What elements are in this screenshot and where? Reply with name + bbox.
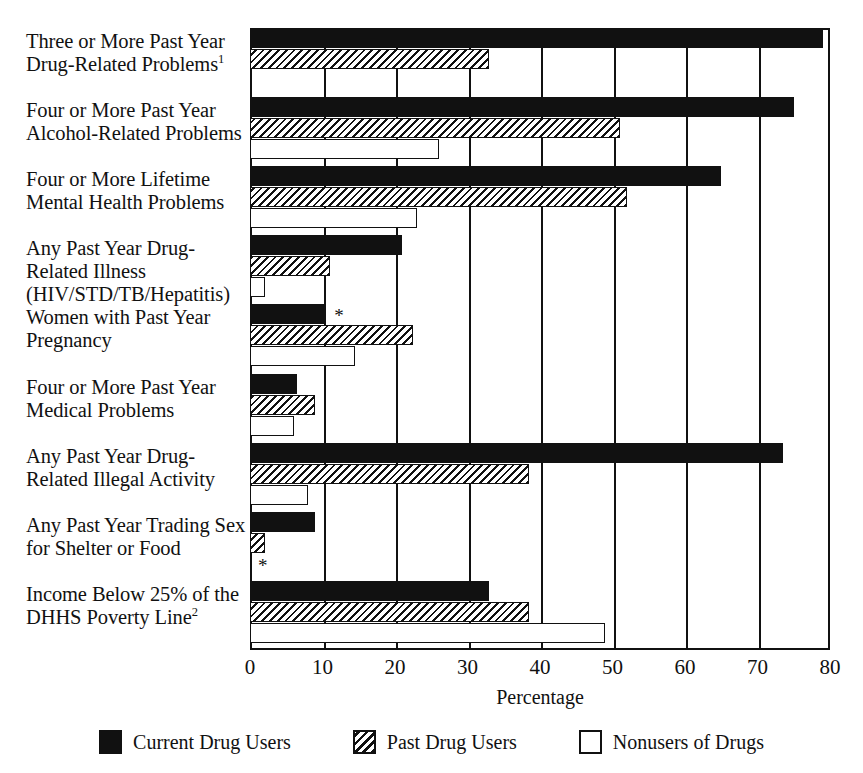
bar-black bbox=[250, 443, 783, 463]
x-axis-title: Percentage bbox=[250, 686, 830, 709]
bar-black bbox=[250, 235, 402, 255]
x-tick-label: 50 bbox=[583, 655, 643, 680]
x-tick-label: 40 bbox=[510, 655, 570, 680]
bar-black bbox=[250, 97, 794, 117]
chart-legend: Current Drug UsersPast Drug UsersNonuser… bbox=[0, 722, 863, 762]
legend-swatch-black bbox=[99, 730, 122, 754]
bar-black bbox=[250, 581, 489, 601]
bar-black bbox=[250, 28, 823, 48]
bar-hatch bbox=[250, 464, 529, 484]
bar-black bbox=[250, 166, 721, 186]
x-tick-label: 0 bbox=[220, 655, 280, 680]
bar-hatch bbox=[250, 533, 265, 553]
category-label-column: Three or More Past Year Drug-Related Pro… bbox=[0, 28, 250, 650]
bar-hatch bbox=[250, 187, 627, 207]
category-label: Any Past Year Trading Sex for Shelter or… bbox=[26, 514, 248, 560]
legend-label: Nonusers of Drugs bbox=[613, 731, 764, 754]
x-tick-label: 30 bbox=[438, 655, 498, 680]
legend-swatch-hatch bbox=[353, 730, 376, 754]
bar-white bbox=[250, 416, 294, 436]
x-tick-label: 70 bbox=[728, 655, 788, 680]
category-label: Three or More Past Year Drug-Related Pro… bbox=[26, 30, 248, 76]
bar-white bbox=[250, 208, 417, 228]
category-label: Four or More Past Year Alcohol-Related P… bbox=[26, 99, 248, 145]
category-label: Four or More Past Year Medical Problems bbox=[26, 376, 248, 422]
bar-black bbox=[250, 304, 326, 324]
significance-asterisk: * bbox=[334, 306, 344, 325]
bar-hatch bbox=[250, 395, 315, 415]
bar-white bbox=[250, 139, 439, 159]
legend-label: Current Drug Users bbox=[133, 731, 291, 754]
bar-hatch bbox=[250, 49, 489, 69]
bar-white bbox=[250, 346, 355, 366]
bar-black bbox=[250, 374, 297, 394]
legend-item: Nonusers of Drugs bbox=[579, 730, 764, 754]
category-label: Four or More Lifetime Mental Health Prob… bbox=[26, 168, 248, 214]
bars-layer: ** bbox=[250, 28, 830, 650]
legend-item: Current Drug Users bbox=[99, 730, 291, 754]
bar-black bbox=[250, 512, 315, 532]
category-label: Women with Past Year Pregnancy bbox=[26, 306, 248, 352]
bar-hatch bbox=[250, 256, 330, 276]
x-tick-label: 60 bbox=[655, 655, 715, 680]
legend-swatch-white bbox=[579, 730, 602, 754]
x-tick-label: 80 bbox=[800, 655, 860, 680]
bar-white bbox=[250, 485, 308, 505]
bar-white bbox=[250, 623, 605, 643]
bar-white bbox=[250, 554, 251, 574]
legend-item: Past Drug Users bbox=[353, 730, 517, 754]
category-label: Any Past Year Drug-Related Illness (HIV/… bbox=[26, 237, 248, 306]
bar-hatch bbox=[250, 118, 620, 138]
category-label: Any Past Year Drug-Related Illegal Activ… bbox=[26, 445, 248, 491]
bar-white bbox=[250, 277, 265, 297]
significance-asterisk: * bbox=[258, 556, 268, 575]
bar-chart: Three or More Past Year Drug-Related Pro… bbox=[0, 0, 863, 773]
bar-hatch bbox=[250, 602, 529, 622]
category-label: Income Below 25% of the DHHS Poverty Lin… bbox=[26, 583, 248, 629]
x-tick-label: 10 bbox=[293, 655, 353, 680]
x-tick-label: 20 bbox=[365, 655, 425, 680]
bar-hatch bbox=[250, 325, 413, 345]
legend-label: Past Drug Users bbox=[387, 731, 517, 754]
